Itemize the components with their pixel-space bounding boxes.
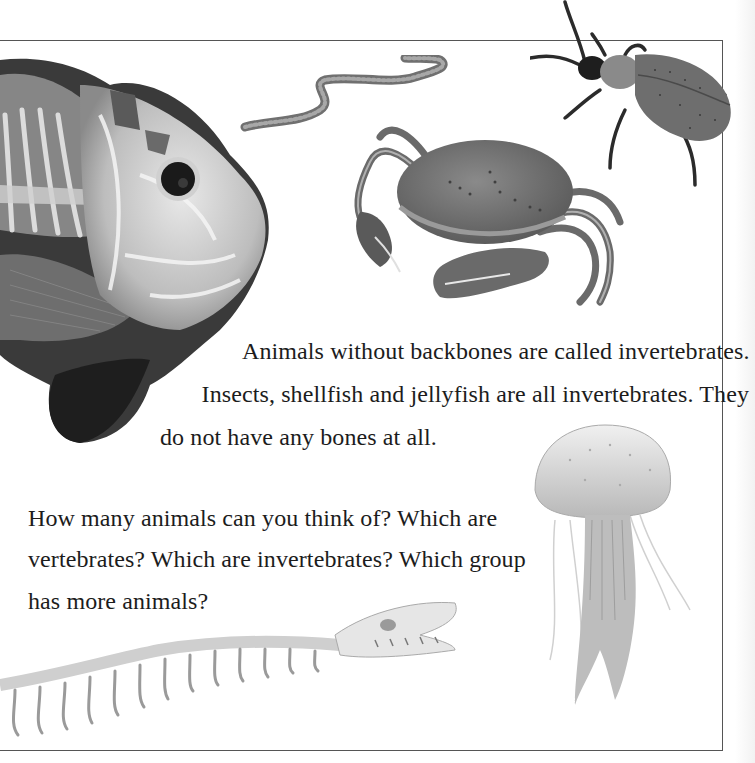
- snake-skeleton-illustration: [0, 595, 470, 755]
- paragraph-question-line-2: vertebrates? Which are invertebrates? Wh…: [28, 546, 526, 573]
- beetle-illustration: [530, 0, 745, 195]
- paragraph-invertebrates-line-1: Animals without backbones are called inv…: [242, 338, 749, 365]
- paragraph-invertebrates-line-3: do not have any bones at all.: [160, 424, 437, 451]
- paragraph-question-line-1: How many animals can you think of? Which…: [28, 505, 497, 532]
- paragraph-invertebrates-line-2: Insects, shellfish and jellyfish are all…: [185, 381, 749, 408]
- paragraph-question-line-3: has more animals?: [28, 588, 208, 615]
- jellyfish-illustration: [530, 420, 710, 720]
